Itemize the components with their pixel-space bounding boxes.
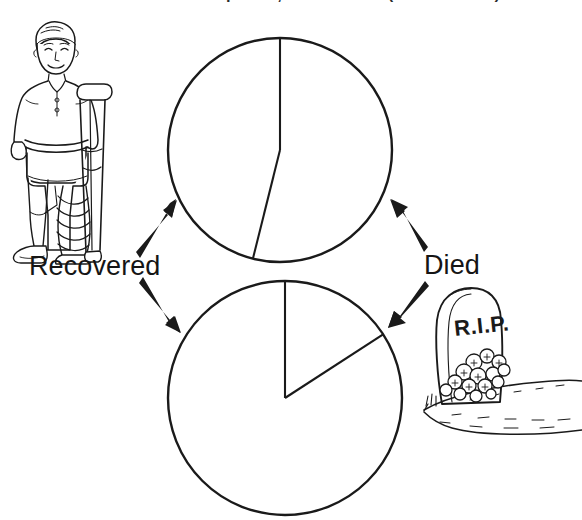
figure-canvas: Before antiseptics, 1864-66 (35 cases) xyxy=(0,0,582,520)
label-recovered: Recovered xyxy=(29,253,160,280)
label-died: Died xyxy=(424,252,480,279)
